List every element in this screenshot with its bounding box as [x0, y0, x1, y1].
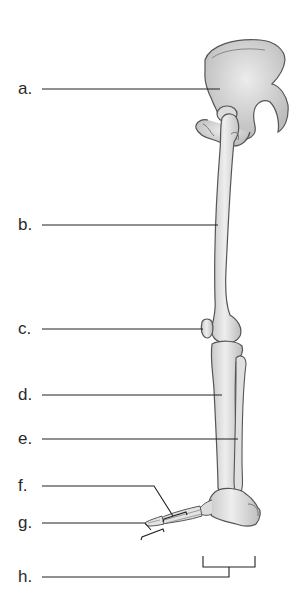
label-g: g.	[18, 514, 32, 531]
tarsal-bones	[198, 488, 260, 526]
bracket-g	[141, 529, 164, 540]
label-a: a.	[18, 80, 32, 97]
phalanx-bones	[145, 516, 164, 526]
label-e: e.	[18, 430, 32, 447]
label-h: h.	[18, 568, 32, 585]
label-b: b.	[18, 216, 32, 233]
bracket-h	[203, 556, 255, 567]
leader-line-g	[42, 523, 151, 530]
leader-line-f	[42, 486, 173, 516]
leg-skeleton-diagram: a. b. c. d. e. f. g. h.	[0, 0, 303, 610]
label-c: c.	[18, 320, 31, 337]
hip-bone	[196, 40, 288, 146]
bone-illustration	[0, 0, 303, 610]
label-f: f.	[18, 477, 27, 494]
fibula-bone	[234, 356, 246, 494]
femur-bone	[211, 114, 240, 343]
leader-line-h	[42, 567, 229, 577]
metatarsal-bones	[160, 506, 202, 524]
patella-bone	[201, 319, 213, 338]
label-d: d.	[18, 386, 32, 403]
